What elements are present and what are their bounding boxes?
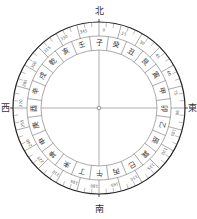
tick-mark [172, 142, 177, 144]
mountain-divider [90, 37, 92, 51]
tick-mark [169, 86, 183, 90]
mountain-divider [153, 80, 166, 85]
degree-label: 90 [175, 110, 180, 116]
mountain-divider [71, 162, 76, 175]
mountain-label: 丑 [126, 46, 136, 56]
degree-label: 255 [19, 119, 26, 128]
mountain-label: 庚 [30, 120, 41, 129]
mountain-label: 壬 [78, 39, 87, 50]
tick-mark [33, 53, 37, 56]
mountain-label: 卯 [160, 105, 169, 112]
mountain-label: 巽 [140, 149, 151, 160]
degree-label: 75 [173, 89, 179, 95]
degree-label: 165 [110, 182, 119, 189]
tick-mark [175, 79, 180, 81]
mountain-label: 戌 [37, 70, 48, 81]
mountain-divider [157, 99, 171, 101]
tick-mark [113, 23, 114, 28]
tick-mark [161, 160, 165, 163]
cardinal-south: 南 [95, 203, 104, 214]
tick-mark [133, 30, 135, 35]
cardinal-north: 北 [95, 6, 104, 16]
tick-mark [63, 181, 65, 186]
mountain-divider [28, 99, 42, 101]
tick-mark [44, 170, 47, 174]
tick-mark [14, 93, 19, 94]
degree-label: 0 [102, 27, 105, 32]
mountain-label: 辰 [150, 135, 160, 145]
degree-label: 105 [170, 128, 177, 137]
tick-mark [118, 25, 122, 39]
tick-mark [18, 136, 23, 138]
tick-mark [50, 38, 53, 42]
mountain-divider [28, 116, 42, 118]
degree-label: 300 [29, 60, 38, 70]
mountain-label: 申 [37, 135, 48, 146]
degree-label: 315 [43, 45, 52, 54]
degree-label: 45 [154, 52, 161, 59]
degree-label: 135 [146, 162, 155, 171]
mountain-divider [157, 116, 171, 118]
tick-mark [21, 72, 26, 74]
degree-label: 240 [25, 138, 33, 147]
cardinal-east: 東 [188, 102, 197, 113]
mountain-label: 寅 [150, 70, 161, 81]
tick-mark [29, 154, 33, 157]
degree-label: 210 [51, 169, 61, 178]
mountain-label: 亥 [61, 46, 72, 57]
degree-label: 330 [59, 34, 68, 42]
mountain-label: 乙 [157, 120, 167, 129]
mountain-divider [107, 166, 109, 180]
degree-label: 195 [69, 179, 78, 186]
degree-label: 150 [129, 174, 138, 182]
center-pivot [97, 106, 101, 110]
mountain-label: 巳 [126, 159, 136, 169]
degree-label: 270 [18, 99, 23, 107]
mountain-label: 乾 [47, 56, 58, 67]
mountain-divider [71, 41, 76, 54]
mountain-divider [90, 166, 92, 180]
mountain-divider [32, 80, 45, 85]
mountain-divider [32, 130, 45, 135]
mountain-label: 丙 [111, 166, 120, 176]
tick-mark [165, 59, 169, 62]
tick-mark [145, 174, 148, 178]
degree-label: 60 [166, 70, 173, 77]
degree-label: 285 [21, 78, 28, 87]
cardinal-west: 西 [1, 103, 10, 113]
compass-diagram: 0153045607590105120135150165180195210225… [0, 0, 197, 219]
mountain-label: 丁 [78, 166, 87, 176]
degree-label: 225 [36, 155, 45, 164]
mountain-label: 未 [61, 159, 72, 170]
mountain-label: 甲 [157, 87, 167, 96]
tick-mark [127, 184, 129, 189]
degree-label: 30 [139, 39, 146, 46]
mountain-label: 癸 [111, 39, 120, 50]
degree-label: 345 [79, 28, 88, 35]
degree-label: 15 [121, 30, 128, 37]
mountain-label: 艮 [140, 57, 151, 68]
mountain-label: 午 [96, 169, 103, 178]
mountain-label: 辛 [30, 87, 41, 96]
mountain-divider [121, 162, 126, 175]
mountain-divider [121, 41, 126, 54]
tick-mark [179, 122, 184, 123]
tick-mark [70, 27, 72, 32]
mountain-divider [153, 130, 166, 135]
mountain-label: 子 [96, 39, 103, 47]
degree-label: 180 [90, 184, 98, 189]
mountain-divider [107, 37, 109, 51]
degree-label: 120 [160, 147, 169, 157]
tick-mark [84, 188, 85, 193]
mountain-label: 坤 [47, 149, 58, 160]
mountain-label: 酉 [30, 105, 38, 112]
tick-mark [151, 42, 154, 46]
